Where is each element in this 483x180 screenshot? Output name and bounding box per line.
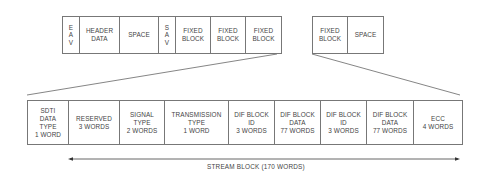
arrow-head-right-icon xyxy=(455,157,460,160)
stream-block-row: SDTI DATA TYPE 1 WORD RESERVED 3 WORDS S… xyxy=(27,100,463,145)
sdti-data-type-cell: SDTI DATA TYPE 1 WORD xyxy=(28,101,69,144)
ecc-cell: ECC 4 WORDS xyxy=(414,101,462,144)
signal-type-cell: SIGNAL TYPE 2 WORDS xyxy=(120,101,165,144)
transmission-type-cell: TRANSMISSION TYPE 1 WORD xyxy=(165,101,229,144)
expand-line-right xyxy=(312,54,460,95)
expand-line-left xyxy=(27,54,277,95)
arrow-head-left-icon xyxy=(68,157,73,160)
dif-block-id-cell-2: DIF BLOCK ID 3 WORDS xyxy=(321,101,367,144)
connector-lines xyxy=(0,0,483,180)
dif-block-id-cell-1: DIF BLOCK ID 3 WORDS xyxy=(229,101,275,144)
dif-block-data-cell-1: DIF BLOCK DATA 77 WORDS xyxy=(275,101,321,144)
reserved-cell: RESERVED 3 WORDS xyxy=(69,101,120,144)
stream-block-label: STREAM BLOCK (170 WORDS) xyxy=(207,163,305,170)
dif-block-data-cell-2: DIF BLOCK DATA 77 WORDS xyxy=(367,101,414,144)
